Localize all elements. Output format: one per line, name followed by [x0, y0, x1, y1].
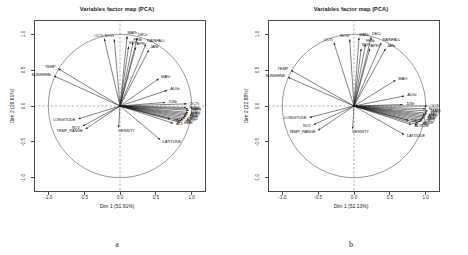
x-tick-label: 0.0 [117, 195, 123, 200]
y-tick-label: -1.0 [250, 173, 264, 183]
x-tick-label: -1.0 [278, 195, 286, 200]
panel-b-y-axis-label: Dim 2 (22.88%) [240, 46, 252, 166]
panel-b-title: Variables factor map (PCA) [234, 6, 468, 12]
y-tick-mark [265, 141, 268, 142]
variable-label: JUNr [168, 100, 177, 104]
variable-label: LONGITUDE [53, 118, 75, 122]
variable-label: AUGr [407, 93, 417, 97]
variable-label: AUGr [170, 87, 180, 91]
y-tick-label: -1.0 [16, 173, 30, 183]
y-tick-mark [265, 106, 268, 107]
y-tick-label: 0.5 [250, 65, 264, 75]
panel-a-letter: a [0, 240, 234, 249]
y-tick-mark [265, 70, 268, 71]
variable-label: NOVr [105, 34, 114, 38]
variable-label: JUNt [183, 121, 191, 125]
variable-label: APRr [371, 44, 380, 48]
variable-label: TEMP_RANGE [289, 130, 315, 134]
pca-figure: Variables factor map (PCA) OCTrNOVrMARrD… [0, 0, 468, 255]
variable-label: APRr [137, 42, 146, 46]
x-tick-label: 0.0 [351, 195, 357, 200]
panel-a-x-axis-label: Dim 1 (51.91%) [0, 203, 234, 209]
x-tick-label: 1.0 [188, 195, 194, 200]
y-tick-label: -0.5 [250, 137, 264, 147]
variable-label: MAYr [161, 75, 170, 79]
y-tick-mark [265, 34, 268, 35]
variable-label: MARr [127, 31, 137, 35]
x-tick-label: 0.5 [153, 195, 159, 200]
y-tick-label: 1.0 [16, 29, 30, 39]
x-tick-label: 1.0 [422, 195, 428, 200]
y-tick-label: 1.0 [250, 29, 264, 39]
panel-a-plot-area [34, 20, 206, 192]
panel-a: Variables factor map (PCA) OCTrNOVrMARrD… [0, 0, 234, 255]
variable-label: SEPr [362, 43, 371, 47]
panel-a-y-axis-label: Dim 2 (26.61%) [6, 46, 18, 166]
variable-label: LONGITUDE [284, 116, 306, 120]
panel-b-x-axis-label: Dim 1 (52.13%) [234, 203, 468, 209]
variable-label: OCTr [94, 34, 103, 38]
variable-label: JANr [150, 45, 158, 49]
variable-label: TEMP [45, 65, 56, 69]
variable-label: DECr [372, 32, 381, 36]
variable-label: NO2 [303, 124, 311, 128]
variable-label: TEMP [278, 67, 289, 71]
variable-label: ALT [414, 124, 421, 128]
variable-label: SUNSHINE [31, 73, 51, 77]
variable-label: RAINFALL [383, 38, 401, 42]
y-tick-mark [31, 70, 34, 71]
variable-label: SUNSHINE [265, 74, 285, 78]
variable-label: LATITUDE [407, 134, 425, 138]
variable-label: TEMP_RANGE [57, 129, 83, 133]
x-tick-label: -0.5 [314, 195, 322, 200]
variable-label: ALT [176, 122, 183, 126]
variable-label: NOVr [340, 34, 349, 38]
y-tick-mark [31, 34, 34, 35]
y-tick-label: 0.0 [16, 101, 30, 111]
variable-label: DENSITY [118, 129, 135, 133]
y-tick-label: -0.5 [16, 137, 30, 147]
x-tick-label: -1.0 [44, 195, 52, 200]
variable-label: JUNt [420, 124, 428, 128]
panel-b: Variables factor map (PCA) OCTrNOVrMARrD… [234, 0, 468, 255]
y-tick-mark [265, 177, 268, 178]
variable-label: RAINFALL [147, 39, 165, 43]
variable-label: MAYr [398, 77, 407, 81]
panel-b-letter: b [234, 240, 468, 249]
variable-label: OCTr [324, 38, 333, 42]
y-tick-mark [31, 141, 34, 142]
y-tick-mark [31, 177, 34, 178]
y-tick-label: 0.5 [16, 65, 30, 75]
x-tick-label: -0.5 [80, 195, 88, 200]
variable-label: LATITUDE [163, 140, 181, 144]
y-tick-mark [31, 106, 34, 107]
y-tick-label: 0.0 [250, 101, 264, 111]
variable-label: MARr [359, 33, 369, 37]
x-tick-label: 0.5 [387, 195, 393, 200]
panel-a-title: Variables factor map (PCA) [0, 6, 234, 12]
variable-label: DENSITY [352, 130, 369, 134]
variable-label: JUNr [406, 102, 415, 106]
variable-label: JANr [387, 44, 395, 48]
